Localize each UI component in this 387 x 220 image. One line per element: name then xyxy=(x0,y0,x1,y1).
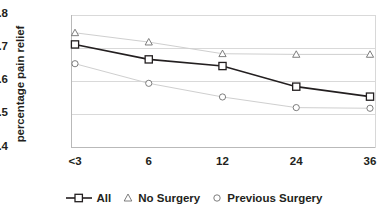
legend-item[interactable]: All xyxy=(65,192,112,204)
data-point-marker xyxy=(367,105,373,111)
legend-item[interactable]: Previous Surgery xyxy=(211,192,322,204)
circle-icon xyxy=(211,192,223,204)
chart-legend: AllNo SurgeryPrevious Surgery xyxy=(0,192,387,204)
legend-label: No Surgery xyxy=(138,192,200,204)
data-point-marker xyxy=(219,62,226,69)
triangle-icon xyxy=(122,192,134,204)
square-with-line-icon xyxy=(65,192,93,204)
data-point-marker xyxy=(145,56,152,63)
data-point-marker xyxy=(72,61,78,67)
data-point-marker xyxy=(293,83,300,90)
legend-item[interactable]: No Surgery xyxy=(122,192,200,204)
data-point-marker xyxy=(71,41,78,48)
series-line xyxy=(75,64,370,109)
data-point-marker xyxy=(146,80,152,86)
legend-label: Previous Surgery xyxy=(227,192,322,204)
pain-relief-line-chart: percentage pain relief 0.80.70.60.50.4 <… xyxy=(0,0,387,220)
legend-label: All xyxy=(97,192,112,204)
data-point-marker xyxy=(71,29,78,35)
data-point-marker xyxy=(366,93,373,100)
data-point-marker xyxy=(219,94,225,100)
series-layer xyxy=(0,0,387,220)
data-point-marker xyxy=(293,105,299,111)
